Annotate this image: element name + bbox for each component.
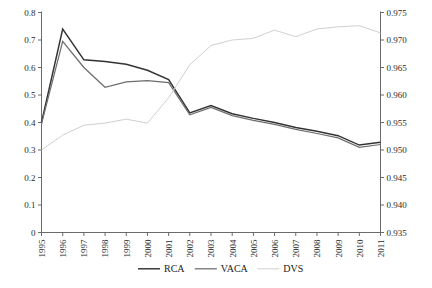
x-axis-tick-label: 2004 — [228, 239, 238, 258]
x-axis-tick-label: 1998 — [100, 239, 110, 258]
series-line-dvs — [42, 26, 381, 150]
legend-label-dvs: DVS — [283, 263, 303, 274]
x-axis-tick-label: 1997 — [79, 239, 89, 258]
right-axis-tick-label: 0.975 — [387, 8, 408, 18]
left-axis-tick-label: 0.6 — [24, 63, 36, 73]
chart-figure: 00.10.20.30.40.50.60.70.80.9350.9400.945… — [0, 0, 432, 288]
x-axis-tick-label: 2007 — [291, 239, 301, 258]
x-axis-tick-label: 2006 — [270, 239, 280, 258]
line-chart: 00.10.20.30.40.50.60.70.80.9350.9400.945… — [0, 0, 432, 288]
left-axis-tick-label: 0.4 — [24, 118, 36, 128]
x-axis-tick-label: 2001 — [164, 240, 174, 258]
x-axis-tick-label: 2011 — [376, 240, 386, 258]
right-axis-tick-label: 0.940 — [387, 200, 408, 210]
legend-label-vaca: VACA — [221, 263, 249, 274]
legend-label-rca: RCA — [164, 263, 185, 274]
right-axis-tick-label: 0.950 — [387, 145, 408, 155]
left-axis-tick-label: 0.8 — [24, 8, 36, 18]
x-axis-tick-label: 2008 — [312, 239, 322, 258]
right-axis-tick-label: 0.945 — [387, 173, 408, 183]
left-axis-tick-label: 0.3 — [24, 145, 36, 155]
left-axis-tick-label: 0.1 — [24, 200, 35, 210]
series-line-rca — [42, 29, 381, 145]
x-axis-tick-label: 1999 — [122, 239, 132, 258]
x-axis-tick-label: 2010 — [355, 239, 365, 258]
x-axis-tick-label: 2000 — [143, 239, 153, 258]
left-axis-tick-label: 0.5 — [24, 90, 36, 100]
right-axis-tick-label: 0.960 — [387, 90, 408, 100]
x-axis-tick-label: 1996 — [58, 239, 68, 258]
right-axis-tick-label: 0.965 — [387, 63, 408, 73]
x-axis-tick-label: 2005 — [249, 239, 259, 258]
left-axis-tick-label: 0.2 — [24, 173, 35, 183]
x-axis-tick-label: 2002 — [185, 240, 195, 258]
x-axis-tick-label: 2003 — [206, 239, 216, 258]
right-axis-tick-label: 0.970 — [387, 35, 408, 45]
series-line-vaca — [42, 41, 381, 147]
right-axis-tick-label: 0.955 — [387, 118, 408, 128]
left-axis-tick-label: 0 — [31, 228, 36, 238]
left-axis-tick-label: 0.7 — [24, 35, 36, 45]
x-axis-tick-label: 2009 — [334, 239, 344, 258]
right-axis-tick-label: 0.935 — [387, 228, 408, 238]
x-axis-tick-label: 1995 — [37, 239, 47, 258]
